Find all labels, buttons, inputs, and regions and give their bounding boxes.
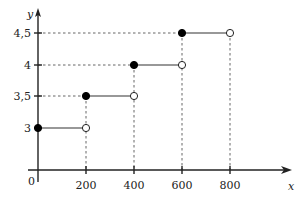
axes [28,8,292,182]
open-dot-800-4-5 [226,29,233,36]
open-dot-400-3-5 [130,92,137,99]
step-function-chart: y x 0 200 400 600 800 3 3,5 4 4,5 [0,0,304,202]
y-axis-label: y [26,8,34,21]
x-tick-label-400: 400 [124,179,145,192]
vertical-guides [86,33,230,170]
open-dot-600-4 [178,61,185,68]
y-tick-label-3: 3 [24,122,31,135]
open-dot-200-3 [82,124,89,131]
closed-dot-400-4 [130,61,137,68]
closed-dot-600-4-5 [178,29,185,36]
axis-labels: y x 0 200 400 600 800 3 3,5 4 4,5 [14,8,296,193]
origin-label: 0 [28,175,35,188]
x-tick-label-800: 800 [220,179,241,192]
x-tick-label-200: 200 [76,179,97,192]
closed-dot-200-3-5 [82,92,89,99]
x-axis-label: x [288,180,295,193]
x-tick-label-600: 600 [172,179,193,192]
closed-dot-0-3 [34,124,41,131]
y-tick-label-4: 4 [24,59,31,72]
y-tick-label-4-5: 4,5 [14,27,32,40]
y-tick-label-3-5: 3,5 [14,90,32,103]
